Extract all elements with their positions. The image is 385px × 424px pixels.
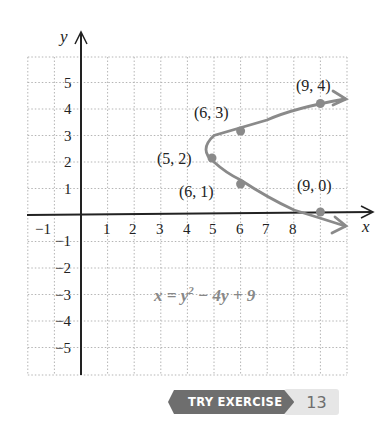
x-tick: −1 — [35, 221, 51, 237]
y-tick: 5 — [64, 75, 72, 91]
x-tick: 6 — [236, 221, 244, 237]
point-9-4 — [316, 99, 325, 108]
x-tick: 1 — [103, 221, 111, 237]
equation-label: x = y2 − 4y + 9 — [153, 284, 256, 305]
point-label: (5, 2) — [157, 150, 192, 168]
x-tick: 3 — [156, 221, 164, 237]
point-6-3 — [236, 127, 245, 136]
point-9-0 — [316, 208, 325, 217]
x-tick: 5 — [209, 221, 217, 237]
point-label: (9, 4) — [296, 77, 331, 95]
point-label: (6, 3) — [194, 104, 229, 122]
point-5-2 — [208, 154, 217, 163]
parabola-graph: y x −1 1 2 3 4 5 6 7 8 5 4 3 2 1 −1 −2 −… — [0, 0, 385, 424]
try-exercise-button[interactable]: TRY EXERCISE — [168, 390, 294, 414]
x-tick-labels: −1 1 2 3 4 5 6 7 8 — [35, 221, 297, 237]
y-tick: −3 — [55, 287, 71, 303]
y-tick: −1 — [55, 233, 71, 249]
point-label: (6, 1) — [179, 183, 214, 201]
y-tick: 1 — [64, 181, 72, 197]
point-label: (9, 0) — [297, 177, 332, 195]
y-axis-label: y — [58, 27, 68, 46]
grid — [28, 57, 347, 375]
x-tick: 4 — [183, 221, 191, 237]
y-tick: 3 — [64, 128, 72, 144]
y-tick: −2 — [55, 260, 71, 276]
y-tick: −4 — [55, 313, 71, 329]
y-tick: 2 — [64, 154, 72, 170]
x-axis-label: x — [361, 217, 370, 236]
try-exercise[interactable]: TRY EXERCISE 13 — [168, 389, 339, 415]
x-tick: 8 — [289, 221, 297, 237]
y-tick: −5 — [55, 340, 71, 356]
x-tick: 2 — [129, 221, 137, 237]
y-tick: 4 — [64, 101, 72, 117]
curve-arrow-top-icon — [333, 91, 346, 105]
x-tick: 7 — [262, 221, 270, 237]
point-6-1 — [236, 180, 245, 189]
